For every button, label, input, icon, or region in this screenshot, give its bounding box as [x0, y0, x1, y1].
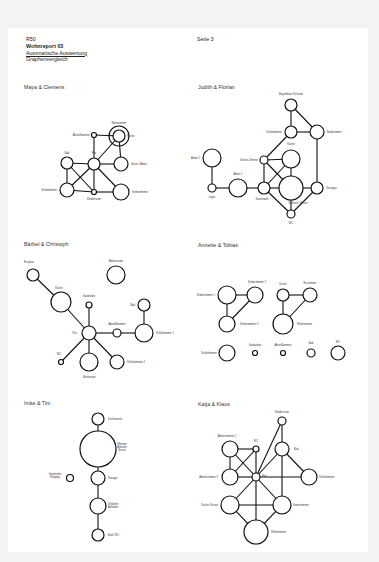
room-node-ga	[114, 157, 128, 171]
room-label: Küche	[287, 142, 295, 146]
room-label: Begehbarer Schrank	[279, 92, 303, 96]
room-node-we	[279, 176, 303, 200]
room-label: Bad	[130, 303, 135, 307]
room-label: Kinderzimmer 2	[248, 280, 267, 284]
room-node-wz	[244, 520, 268, 544]
room-label: Flur	[73, 331, 78, 335]
room-label: Kleiderraum	[275, 410, 289, 414]
room-graph: Begehbarer SchrankSchlafzimmerBadezimmer…	[191, 92, 342, 225]
room-node-tn	[311, 182, 323, 194]
room-label: WC	[57, 352, 61, 356]
room-node-bad	[307, 349, 315, 357]
graph-canvas: WohnzimmerKücheAbstellkammerFlurBadGäste…	[0, 0, 379, 562]
room-node-bs	[285, 99, 297, 111]
room-graph: Kinderzimmer 1Kinderzimmer 2Kinderzimmer…	[197, 280, 345, 361]
room-label: Abstellkammer	[274, 343, 291, 347]
room-label: Küchenzeile	[108, 417, 123, 421]
room-graph: KüchenzeileWohnenArbeitenEssenStorageGar…	[49, 413, 128, 541]
room-label: Küche / Essen	[201, 503, 218, 507]
room-node-sz	[301, 469, 317, 485]
room-label: Badezimmer	[327, 130, 342, 134]
room-label: Wohnen / Essen	[289, 201, 309, 205]
room-label: Schlafzimmer 2	[127, 360, 145, 364]
room-node-wc	[253, 446, 259, 452]
room-node-ga	[86, 302, 92, 308]
room-label: Schlafzimmer 1	[156, 331, 174, 335]
room-label: Wohnzimmer	[111, 121, 126, 125]
room-label: Lager	[209, 195, 216, 199]
room-label: Kinderzimmer	[293, 503, 309, 507]
room-node-lg	[208, 184, 216, 192]
room-node-ku	[277, 289, 289, 301]
room-node-k2	[247, 287, 263, 303]
room-label: Bad / WC	[108, 533, 119, 537]
room-node-a1	[229, 179, 247, 197]
room-label: Garderobe	[249, 343, 262, 347]
room-label: Arbeitszimmer 1	[218, 434, 237, 438]
room-node-kr	[278, 417, 286, 425]
room-label: Flur	[262, 474, 267, 478]
room-graph: EssplatzArbeitsraumKücheGarderobeBadFlur…	[24, 259, 174, 379]
room-label: Wohnraum	[83, 375, 96, 379]
room-label: Gäste / Arbeit	[131, 162, 147, 166]
room-label: Wohnzimmer	[297, 322, 312, 326]
room-node-ge	[67, 475, 74, 482]
room-label: Eingang	[50, 475, 60, 479]
room-label: Abstellkammer	[108, 322, 125, 326]
room-label: Kleiderraum	[87, 197, 101, 201]
room-node-ez	[303, 288, 317, 302]
room-label: Abstellkammer	[73, 133, 90, 137]
room-node-ab	[92, 133, 97, 138]
room-node-ku	[113, 130, 125, 142]
room-label: Arbeit 1	[234, 172, 243, 176]
room-node-fl	[88, 158, 100, 170]
room-node-a2	[203, 149, 221, 167]
room-node-kw	[258, 182, 270, 194]
room-node-ke	[221, 496, 239, 514]
room-node-sa	[90, 498, 106, 514]
room-node-sz	[285, 126, 297, 138]
room-node-kz	[273, 496, 291, 514]
room-node-wr	[80, 353, 98, 371]
room-node-s2	[110, 355, 124, 369]
room-node-fl	[252, 473, 260, 481]
room-label: Arbeitsraum	[109, 259, 123, 263]
room-label: Kinderzimmer 1	[197, 293, 216, 297]
room-label: Wohnzimmer	[271, 530, 286, 534]
room-label: Teenager	[326, 186, 337, 190]
room-node-fl	[82, 326, 96, 340]
room-graph: WohnzimmerKücheAbstellkammerFlurBadGäste…	[41, 121, 148, 201]
room-node-bad	[61, 157, 73, 169]
room-node-wz	[273, 314, 293, 334]
room-node-kl	[92, 190, 97, 195]
room-label: Schlafzimmer	[319, 475, 335, 479]
room-label: Arbeit 2	[191, 156, 200, 160]
room-node-bz	[310, 125, 324, 139]
room-node-ar	[107, 266, 125, 284]
room-label: Küche	[127, 134, 135, 138]
room-node-bad	[138, 299, 150, 311]
room-node-bad	[275, 442, 289, 456]
room-node-wae	[80, 431, 116, 467]
room-node-wc	[287, 210, 295, 218]
room-label: Flur	[92, 151, 97, 155]
room-node-sz	[60, 183, 74, 197]
room-label: Bad	[294, 447, 299, 451]
room-label: Storage	[108, 476, 118, 480]
room-node-ak	[113, 329, 121, 337]
room-label: WC	[336, 340, 340, 344]
room-node-k3	[219, 316, 235, 332]
room-node-ku	[51, 292, 71, 312]
room-node-bw	[92, 529, 104, 541]
room-label: Bad	[309, 341, 314, 345]
room-label: Schlafzimmer	[201, 351, 217, 355]
room-label: Kinderzimmer 3	[240, 322, 259, 326]
room-node-a2	[222, 469, 238, 485]
room-node-ku	[282, 150, 300, 168]
room-node-k1	[218, 286, 236, 304]
room-node-kz	[113, 184, 129, 200]
room-label: WC	[254, 439, 258, 443]
room-label: Schlafzimmer	[41, 188, 57, 192]
room-label: Katzenwelt	[256, 197, 269, 201]
room-label: Grünes Zimmer	[240, 158, 258, 162]
